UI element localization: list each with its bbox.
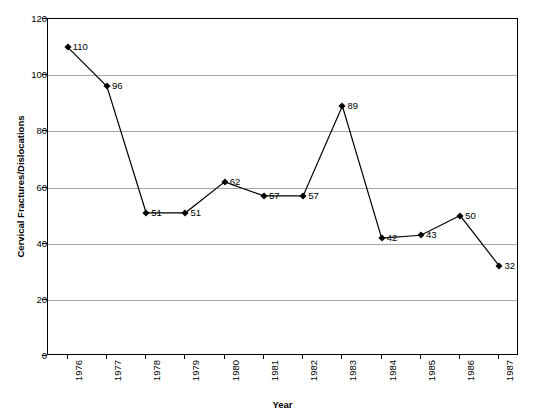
x-tick-label-1981: 1981 — [269, 360, 281, 400]
x-tick-label-1978: 1978 — [151, 360, 163, 400]
x-tick-mark-1983 — [341, 355, 342, 359]
line-chart: Cervical Fractures/Dislocations 02040608… — [0, 0, 538, 419]
x-tick-label-1985: 1985 — [426, 360, 438, 400]
x-tick-label-1986: 1986 — [465, 360, 477, 400]
x-tick-mark-1985 — [420, 355, 421, 359]
x-tick-mark-1986 — [459, 355, 460, 359]
x-tick-mark-1978 — [145, 355, 146, 359]
x-tick-mark-1987 — [498, 355, 499, 359]
x-tick-mark-1976 — [67, 355, 68, 359]
x-tick-mark-1980 — [224, 355, 225, 359]
x-tick-label-1977: 1977 — [112, 360, 124, 400]
x-tick-mark-1982 — [302, 355, 303, 359]
x-tick-label-1983: 1983 — [347, 360, 359, 400]
x-tick-mark-1984 — [381, 355, 382, 359]
x-tick-label-1982: 1982 — [308, 360, 320, 400]
x-tick-label-1979: 1979 — [190, 360, 202, 400]
x-tick-mark-1977 — [106, 355, 107, 359]
x-tick-label-1984: 1984 — [387, 360, 399, 400]
x-axis: 1976197719781979198019811982198319841985… — [0, 0, 538, 419]
x-tick-label-1980: 1980 — [230, 360, 242, 400]
x-tick-label-1976: 1976 — [73, 360, 85, 400]
x-axis-title: Year — [47, 399, 518, 410]
x-tick-label-1987: 1987 — [504, 360, 516, 400]
x-tick-mark-1981 — [263, 355, 264, 359]
x-tick-mark-1979 — [184, 355, 185, 359]
